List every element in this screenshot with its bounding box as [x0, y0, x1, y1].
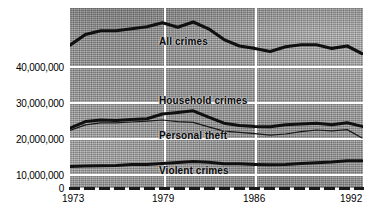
plot-area: All crimes Household crimes Personal the… — [70, 8, 363, 188]
x-axis-tick-label-1992: 1992 — [340, 194, 362, 204]
x-axis-tick-label-1986: 1986 — [243, 194, 265, 204]
series-line-all-crimes — [70, 22, 362, 54]
series-label-household-crimes: Household crimes — [159, 95, 247, 106]
y-axis-tick-label-10m: 10,000,000 — [0, 171, 64, 181]
y-axis-tick-label-40m: 40,000,000 — [0, 63, 64, 73]
x-axis-tick-label-1973: 1973 — [62, 194, 84, 204]
y-axis-tick-label-0: 0 — [0, 184, 64, 194]
x-axis-baseline — [68, 186, 365, 192]
series-label-personal-theft: Personal theft — [159, 130, 227, 141]
crime-trends-chart: 40,000,000 30,000,000 20,000,000 10,000,… — [0, 0, 377, 211]
series-line-household-crimes — [70, 111, 362, 128]
x-axis-tick-label-1979: 1979 — [152, 194, 174, 204]
y-axis-tick-label-20m: 20,000,000 — [0, 135, 64, 145]
y-axis-tick-label-30m: 30,000,000 — [0, 99, 64, 109]
series-label-violent-crimes: Violent crimes — [159, 165, 229, 176]
series-label-all-crimes: All crimes — [159, 36, 208, 47]
